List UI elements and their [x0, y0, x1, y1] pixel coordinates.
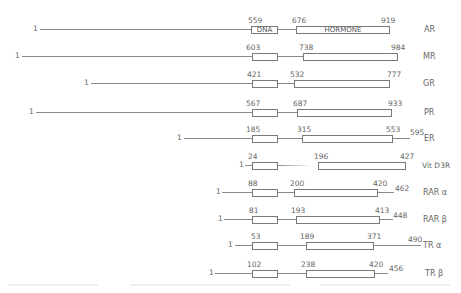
- receptor-name: RAR α: [423, 188, 447, 197]
- hormone-binding-domain: [318, 162, 406, 170]
- hormone-start-residue: 238: [301, 261, 315, 269]
- hinge-line: [278, 245, 306, 246]
- start-residue: 1: [239, 161, 244, 169]
- total-length: 456: [389, 265, 403, 273]
- hinge-line: [278, 83, 294, 84]
- receptor-name: TR α: [423, 241, 441, 250]
- dna-start-residue: 603: [246, 44, 260, 52]
- hormone-end-residue: 371: [367, 233, 381, 241]
- dna-binding-domain: [252, 109, 278, 117]
- hormone-end-residue: 984: [391, 44, 405, 52]
- total-length: 448: [393, 212, 407, 220]
- n-terminal-line: [184, 138, 252, 139]
- dna-binding-domain: DNA: [251, 26, 278, 34]
- hormone-end-residue: 919: [381, 17, 395, 25]
- hormone-end-residue: 553: [386, 126, 400, 134]
- dna-binding-domain: [252, 80, 278, 88]
- receptor-row-er: 1 185 315 553 595 ER: [0, 125, 461, 151]
- dna-start-residue: 559: [248, 17, 262, 25]
- n-terminal-line: [222, 192, 252, 193]
- receptor-name: PR: [424, 108, 434, 117]
- hormone-end-residue: 427: [400, 153, 414, 161]
- start-residue: 1: [209, 269, 214, 277]
- start-residue: 1: [218, 215, 223, 223]
- n-terminal-line: [22, 56, 252, 57]
- start-residue: 1: [29, 108, 34, 116]
- n-terminal-line: [91, 83, 252, 84]
- dna-binding-domain: [252, 135, 278, 143]
- hormone-start-residue: 687: [293, 100, 307, 108]
- dna-start-residue: 81: [249, 207, 259, 215]
- receptor-row-rar-beta: 1 81 193 413 448 RAR β: [0, 206, 461, 232]
- receptor-row-rar-alpha: 1 88 200 420 462 RAR α: [0, 179, 461, 205]
- hormone-start-residue: 532: [290, 71, 304, 79]
- hormone-start-residue: 196: [314, 153, 328, 161]
- hinge-line: [278, 192, 294, 193]
- dna-binding-domain: [252, 53, 278, 61]
- hormone-end-residue: 933: [388, 100, 402, 108]
- c-terminal-line: [393, 138, 410, 139]
- receptor-name: AR: [424, 25, 435, 34]
- hinge-line: [278, 219, 296, 220]
- dna-start-residue: 102: [247, 261, 261, 269]
- start-residue: 1: [33, 25, 38, 33]
- n-terminal-line: [215, 273, 252, 274]
- hormone-binding-domain: [294, 80, 390, 88]
- dna-binding-domain: [252, 242, 278, 250]
- receptor-row-vitd3r: 1 24 196 427 Vit D3R: [0, 152, 461, 178]
- receptor-name: RAR β: [423, 215, 447, 224]
- hinge-line: [278, 273, 306, 274]
- start-residue: 1: [228, 241, 233, 249]
- receptor-row-pr: 1 567 687 933 PR: [0, 99, 461, 125]
- dna-start-residue: 88: [248, 180, 258, 188]
- hormone-binding-domain: [306, 270, 375, 278]
- receptor-row-ar: 1 559 DNA 676 HORMONE 919 AR: [0, 16, 461, 42]
- caption-remnant: [130, 284, 290, 286]
- hormone-end-residue: 420: [373, 180, 387, 188]
- hormone-binding-domain: [302, 135, 393, 143]
- hormone-end-residue: 420: [369, 261, 383, 269]
- n-terminal-line: [36, 112, 252, 113]
- c-terminal-line: [375, 273, 388, 274]
- hinge-line-fading: [278, 165, 312, 166]
- caption-remnant: [8, 284, 98, 286]
- dna-binding-domain: [252, 216, 278, 224]
- c-terminal-line: [380, 219, 393, 220]
- receptor-row-mr: 1 603 738 984 MR: [0, 43, 461, 69]
- hinge-line: [278, 138, 302, 139]
- hormone-end-residue: 777: [387, 71, 401, 79]
- dna-binding-domain: [252, 189, 278, 197]
- dna-start-residue: 567: [246, 100, 260, 108]
- c-terminal-line: [374, 245, 421, 246]
- hormone-binding-domain: [303, 53, 398, 61]
- hormone-start-residue: 189: [300, 233, 314, 241]
- hormone-label: HORMONE: [325, 26, 362, 34]
- receptor-name: TR β: [425, 269, 443, 278]
- n-terminal-line: [235, 245, 252, 246]
- receptor-name: MR: [423, 52, 435, 61]
- c-terminal-line: [378, 192, 394, 193]
- receptor-name: ER: [424, 134, 435, 143]
- dna-start-residue: 185: [246, 126, 260, 134]
- hormone-start-residue: 193: [291, 207, 305, 215]
- receptor-row-gr: 1 421 532 777 GR: [0, 70, 461, 96]
- dna-start-residue: 421: [247, 71, 261, 79]
- hormone-binding-domain: [294, 189, 378, 197]
- hormone-start-residue: 200: [290, 180, 304, 188]
- hormone-binding-domain: [297, 109, 392, 117]
- hormone-binding-domain: HORMONE: [296, 26, 390, 34]
- hormone-start-residue: 315: [297, 126, 311, 134]
- total-length: 595: [410, 129, 424, 137]
- dna-binding-domain: [252, 162, 278, 170]
- total-length: 462: [395, 185, 409, 193]
- hormone-binding-domain: [306, 242, 374, 250]
- start-residue: 1: [177, 134, 182, 142]
- dna-label: DNA: [257, 26, 272, 34]
- hormone-binding-domain: [296, 216, 380, 224]
- n-terminal-line: [40, 29, 251, 30]
- hormone-start-residue: 738: [299, 44, 313, 52]
- receptor-row-tr-alpha: 1 53 189 371 490 TR α: [0, 232, 461, 258]
- caption-remnant: [320, 284, 450, 286]
- hormone-start-residue: 676: [292, 17, 306, 25]
- hinge-line: [278, 112, 297, 113]
